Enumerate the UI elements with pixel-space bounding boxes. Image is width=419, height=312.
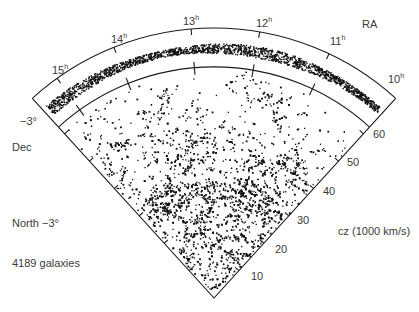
ra-tick-label: 13h (183, 14, 199, 27)
ra-tick-label: 14h (111, 32, 127, 45)
ra-axis-label: RA (362, 19, 377, 30)
cz-axis-label: cz (1000 km/s) (338, 226, 410, 237)
slice-label: North −3° (12, 218, 59, 229)
ra-tick-label: 10h (388, 72, 404, 85)
dec-axis-label: Dec (12, 142, 32, 153)
ra-tick-label: 12h (256, 16, 272, 29)
cz-tick-label: 60 (373, 129, 385, 140)
ra-tick-label: 15h (52, 63, 68, 76)
cz-tick-label: 50 (347, 157, 359, 168)
cz-tick-label: 20 (275, 244, 287, 255)
ra-tick-label: 11h (330, 34, 345, 47)
cz-tick-label: 30 (297, 215, 309, 226)
wedge-frame (32, 28, 395, 298)
cz-tick-label: 10 (251, 271, 263, 282)
dec-value-label: −3° (20, 116, 37, 127)
cz-tick-label: 40 (323, 186, 335, 197)
galaxy-count-label: 4189 galaxies (12, 258, 80, 269)
galaxy-points (68, 72, 345, 290)
